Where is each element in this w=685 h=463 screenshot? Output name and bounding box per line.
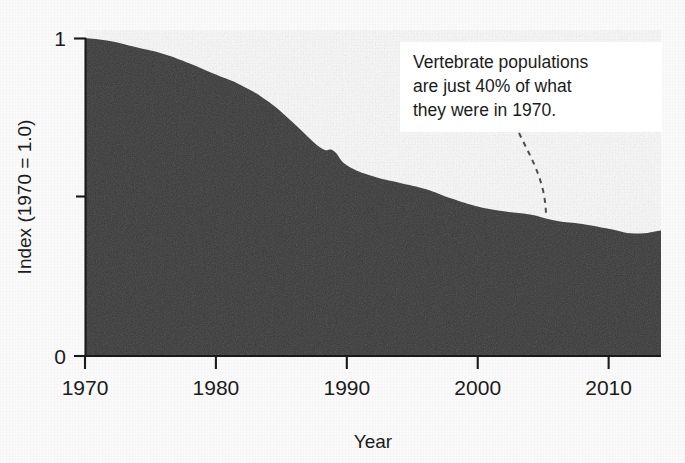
x-tick-label-1990: 1990 bbox=[323, 376, 370, 399]
x-tick-label-1970: 1970 bbox=[62, 376, 109, 399]
x-ticks-group: 19701980199020002010 bbox=[62, 356, 632, 399]
x-axis-title: Year bbox=[354, 431, 393, 452]
chart-figure: 1 0 Index (1970 = 1.0) 19701980199020002… bbox=[0, 0, 685, 463]
y-axis-title: Index (1970 = 1.0) bbox=[14, 120, 35, 275]
x-tick-label-2000: 2000 bbox=[454, 376, 501, 399]
x-tick-label-1980: 1980 bbox=[193, 376, 240, 399]
annotation-leader-line bbox=[519, 133, 546, 214]
x-tick-label-2010: 2010 bbox=[585, 376, 632, 399]
annotation-line-1: Vertebrate populations bbox=[413, 51, 649, 75]
annotation-line-3: they were in 1970. bbox=[413, 99, 649, 123]
annotation-line-2: are just 40% of what bbox=[413, 75, 649, 99]
y-tick-label-bottom: 0 bbox=[54, 345, 66, 368]
annotation-callout: Vertebrate populations are just 40% of w… bbox=[400, 42, 662, 132]
y-tick-label-top: 1 bbox=[54, 27, 66, 50]
